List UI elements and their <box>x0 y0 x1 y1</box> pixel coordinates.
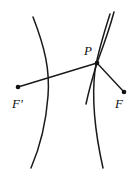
point-p-label: P <box>84 44 92 57</box>
focus-right-label: F <box>115 97 123 110</box>
focus-left-dot <box>16 85 21 90</box>
point-p-dot <box>95 61 100 66</box>
diagram-canvas <box>0 0 138 171</box>
left-branch-curve <box>31 17 48 168</box>
right-branch-curve <box>94 14 110 168</box>
tangent-line-curve <box>86 12 114 104</box>
focal-radius-right-segment <box>97 63 124 92</box>
focus-right-dot <box>122 90 127 95</box>
focal-radius-left-segment <box>18 63 97 87</box>
conic-focal-diagram: F' F P <box>0 0 138 171</box>
focus-left-label: F' <box>12 97 23 110</box>
